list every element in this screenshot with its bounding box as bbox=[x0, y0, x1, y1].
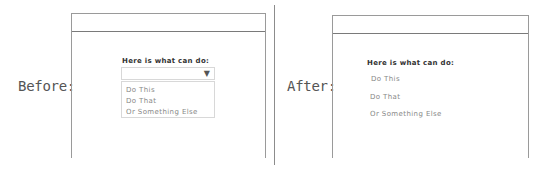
after-window-frame bbox=[332, 15, 529, 158]
after-label: After: bbox=[287, 78, 336, 94]
option-do-this[interactable]: Do This bbox=[371, 75, 400, 83]
after-heading: Here is what can do: bbox=[367, 59, 454, 67]
before-dropdown-select[interactable]: ▼ bbox=[121, 67, 215, 80]
option-do-that[interactable]: Do That bbox=[370, 93, 400, 101]
dropdown-option-do-this[interactable]: Do This bbox=[126, 86, 155, 94]
after-window-header bbox=[333, 16, 528, 34]
before-heading: Here is what can do: bbox=[122, 57, 209, 65]
chevron-down-icon: ▼ bbox=[204, 69, 210, 79]
dropdown-option-do-that[interactable]: Do That bbox=[126, 97, 156, 105]
before-label: Before: bbox=[18, 78, 75, 94]
before-window-header bbox=[72, 14, 265, 32]
before-dropdown-list: Do This Do That Or Something Else bbox=[121, 81, 215, 118]
dropdown-option-something-else[interactable]: Or Something Else bbox=[126, 108, 198, 116]
option-something-else[interactable]: Or Something Else bbox=[370, 110, 442, 118]
center-divider bbox=[274, 5, 275, 165]
